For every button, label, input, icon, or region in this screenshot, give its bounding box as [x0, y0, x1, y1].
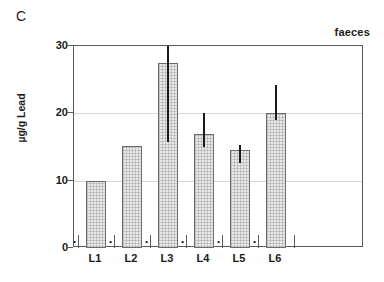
y-axis-tick-label: 30 — [38, 40, 68, 51]
x-axis-category-label: L5 — [222, 252, 256, 264]
panel-label: C — [16, 8, 26, 24]
sample-type-annotation: faeces — [335, 26, 370, 38]
errorbar — [239, 145, 241, 163]
chart-figure: C faeces µg/g Lead 0102030 ······ L1L2L3… — [0, 0, 384, 282]
x-axis-tick-mark — [114, 235, 115, 248]
x-axis-category-label: L3 — [150, 252, 184, 264]
gridline — [74, 181, 362, 182]
x-axis-tick-mark — [294, 235, 295, 248]
bar — [86, 181, 106, 248]
x-axis-tick-mark — [186, 235, 187, 248]
bar — [230, 150, 250, 248]
y-axis-title: µg/g Lead — [15, 78, 27, 158]
y-axis-tick-label: 0 — [38, 242, 68, 253]
x-axis-tick-mark — [150, 235, 151, 248]
x-axis-tick-mark — [78, 235, 79, 248]
x-axis-category-label: L4 — [186, 252, 220, 264]
errorbar — [275, 85, 277, 120]
x-axis-category-label: L6 — [258, 252, 292, 264]
x-axis-category-label: L2 — [114, 252, 148, 264]
x-axis-tick-mark — [258, 235, 259, 248]
x-axis-category-label: L1 — [78, 252, 112, 264]
x-axis-tick-mark — [222, 235, 223, 248]
y-axis-tick-label: 10 — [38, 175, 68, 186]
errorbar — [167, 46, 169, 142]
bar — [122, 146, 142, 248]
bar — [194, 134, 214, 248]
bar — [266, 113, 286, 248]
plot-area: ······ — [73, 45, 363, 247]
y-axis-tick-label: 20 — [38, 107, 68, 118]
errorbar — [203, 113, 205, 147]
gridline — [74, 113, 362, 114]
